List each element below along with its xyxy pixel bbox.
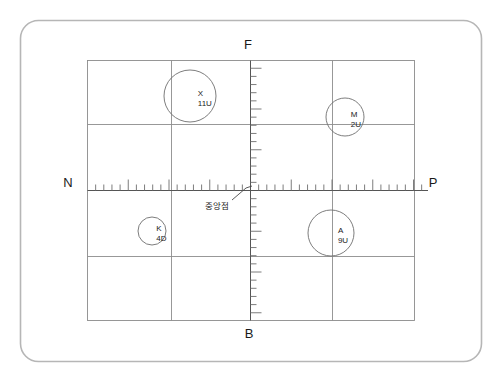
marker-a-label: A9U — [338, 226, 348, 245]
axis-label-left: N — [63, 175, 72, 190]
marker-m-value: 2U — [351, 120, 361, 130]
marker-a-value: 9U — [338, 236, 348, 246]
marker-x-label: X11U — [198, 89, 212, 108]
diagram-canvas: F B N P 중앙점 X11UM2UK4DA9U — [0, 0, 501, 381]
center-point-annotation: 중앙점 — [205, 199, 229, 211]
marker-k-value: 4D — [156, 234, 166, 244]
axis-label-right: P — [429, 175, 438, 190]
axis-label-bottom: B — [245, 326, 254, 341]
marker-m-name: M — [351, 110, 361, 120]
marker-m-label: M2U — [351, 110, 361, 129]
diagram-svg — [0, 0, 501, 381]
marker-x-value: 11U — [198, 99, 212, 109]
marker-k-label: K4D — [156, 224, 166, 243]
marker-k-name: K — [156, 224, 166, 234]
axis-label-top: F — [244, 37, 252, 52]
marker-a-name: A — [338, 226, 348, 236]
horizontal-ruler — [96, 180, 422, 191]
marker-x-name: X — [198, 89, 212, 99]
